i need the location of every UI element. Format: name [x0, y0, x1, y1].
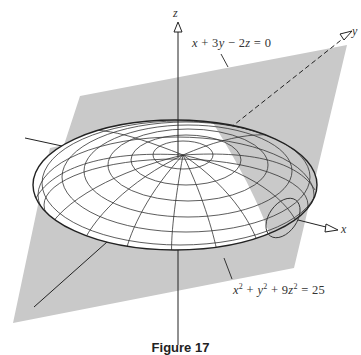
ellipsoid-equation-label: x2 + y2 + 9z2 = 25	[233, 283, 325, 298]
plane-label-leader	[221, 54, 228, 67]
figure-ellipsoid-plane	[0, 0, 361, 355]
plane-equation-label: x + 3y − 2z = 0	[192, 36, 271, 51]
y-axis-label: y	[352, 24, 357, 39]
x-axis-arrow-icon	[325, 224, 338, 232]
x-axis-label: x	[341, 222, 346, 237]
z-axis-arrow-icon	[174, 22, 182, 32]
y-axis-arrow-icon	[340, 31, 352, 40]
figure-caption: Figure 17	[0, 340, 361, 355]
z-axis-label: z	[173, 6, 178, 21]
x-axis-negative	[25, 138, 62, 146]
